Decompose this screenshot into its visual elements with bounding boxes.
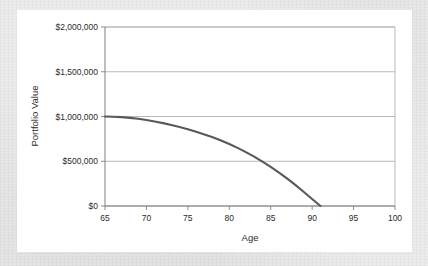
x-tick-label: 65 xyxy=(100,213,110,223)
x-tick-labels-group: 65707580859095100 xyxy=(100,213,402,223)
y-tick-labels-group: $0$500,000$1,000,000$1,500,000$2,000,000 xyxy=(55,22,98,211)
x-tick-label: 75 xyxy=(183,213,193,223)
x-axis-title: Age xyxy=(242,232,259,243)
x-tick-label: 70 xyxy=(142,213,152,223)
x-tick-label: 95 xyxy=(349,213,359,223)
x-tick-label: 80 xyxy=(225,213,235,223)
y-tick-label: $0 xyxy=(89,201,99,211)
portfolio-depletion-chart: $0$500,000$1,000,000$1,500,000$2,000,000… xyxy=(17,10,412,252)
y-axis-title: Portfolio Value xyxy=(29,85,40,146)
x-tick-label: 90 xyxy=(307,213,317,223)
y-tick-label: $500,000 xyxy=(63,156,99,166)
x-tick-marks-group xyxy=(105,206,395,210)
y-tick-label: $1,500,000 xyxy=(55,67,98,77)
x-tick-label: 85 xyxy=(266,213,276,223)
y-tick-label: $2,000,000 xyxy=(55,22,98,32)
chart-card: $0$500,000$1,000,000$1,500,000$2,000,000… xyxy=(17,10,412,252)
y-tick-label: $1,000,000 xyxy=(55,112,98,122)
x-tick-label: 100 xyxy=(388,213,402,223)
